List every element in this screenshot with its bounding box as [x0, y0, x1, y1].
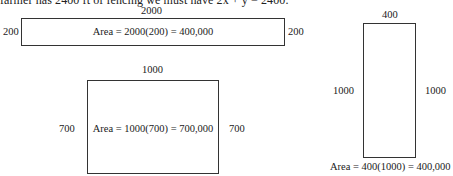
top-dimension-label: 400	[382, 9, 398, 21]
left-dimension-label: 1000	[333, 85, 354, 97]
left-dimension-label: 200	[3, 26, 19, 38]
right-dimension-label: 700	[229, 123, 245, 135]
right-dimension-label: 200	[288, 26, 304, 38]
top-dimension-label: 1000	[142, 64, 163, 76]
area-formula: Area = 2000(200) = 400,000	[22, 26, 284, 38]
area-formula: Area = 1000(700) = 700,000	[88, 123, 218, 135]
area-formula: Area = 400(1000) = 400,000	[330, 161, 451, 173]
top-dimension-label: 2000	[141, 5, 162, 17]
left-dimension-label: 700	[59, 123, 75, 135]
rectangle-shape: Area = 1000(700) = 700,000	[87, 80, 219, 174]
rectangle-shape: Area = 2000(200) = 400,000	[21, 18, 285, 46]
right-dimension-label: 1000	[425, 85, 446, 97]
rectangle-shape	[363, 23, 416, 158]
